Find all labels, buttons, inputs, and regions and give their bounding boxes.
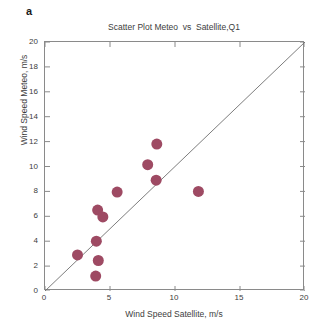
data-point <box>151 139 162 150</box>
data-point <box>142 159 153 170</box>
x-tick-label: 15 <box>226 293 252 302</box>
x-tick-label: 20 <box>291 293 317 302</box>
data-point <box>93 255 104 266</box>
data-point <box>90 271 101 282</box>
one-to-one-line-icon <box>45 42 305 291</box>
plot-area <box>44 41 304 290</box>
y-tick-label: 2 <box>12 261 38 270</box>
plot-canvas <box>45 42 305 291</box>
x-tick-label: 10 <box>161 293 187 302</box>
x-tick-label: 5 <box>96 293 122 302</box>
y-tick-label: 6 <box>12 211 38 220</box>
y-tick-label: 8 <box>12 186 38 195</box>
data-point <box>112 187 123 198</box>
data-point <box>91 236 102 247</box>
x-axis-title: Wind Speed Satellite, m/s <box>44 309 304 319</box>
scatter-plot-figure: a Scatter Plot Meteo vs Satellite,Q1 024… <box>0 0 325 332</box>
data-point <box>97 211 108 222</box>
y-axis-title: Wind Speed Meteo, m/s <box>19 20 29 180</box>
data-point <box>193 186 204 197</box>
data-point <box>72 249 83 260</box>
chart-title: Scatter Plot Meteo vs Satellite,Q1 <box>44 22 304 32</box>
y-tick-label: 4 <box>12 236 38 245</box>
panel-label: a <box>26 5 32 17</box>
x-tick-label: 0 <box>31 293 57 302</box>
data-point <box>151 175 162 186</box>
